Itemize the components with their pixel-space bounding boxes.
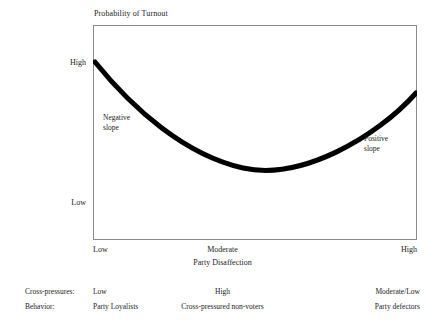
chart-title: Probability of Turnout [94, 8, 168, 19]
chart-figure: Probability of Turnout High Low Negative… [0, 0, 445, 270]
table-row: Behavior: Party Loyalists Cross-pressure… [0, 301, 445, 316]
y-axis-label-low: Low [16, 198, 86, 208]
annotation-negative-slope: Negative slope [103, 113, 130, 133]
turnout-curve-path [95, 62, 416, 170]
annotation-positive-slope-line2: slope [364, 144, 388, 154]
table-row: Cross-pressures: Low High Moderate/Low [0, 286, 445, 301]
curve-layer [93, 25, 417, 240]
y-axis-label-high: High [16, 58, 86, 68]
table-cell-cross-pressures-high: Moderate/Low [0, 286, 420, 298]
table-cell-behavior-high: Party defectors [0, 301, 420, 313]
turnout-curve-svg [93, 25, 417, 240]
annotation-negative-slope-line2: slope [103, 123, 130, 133]
annotation-positive-slope-line1: Positive [364, 134, 388, 144]
x-axis-title: Party Disaffection [0, 258, 445, 268]
annotation-negative-slope-line1: Negative [103, 113, 130, 123]
bottom-annotation-table: Cross-pressures: Low High Moderate/Low B… [0, 286, 445, 320]
x-axis-label-high: High [0, 245, 417, 255]
chart-page: Probability of Turnout High Low Negative… [0, 0, 445, 330]
annotation-positive-slope: Positive slope [364, 134, 388, 154]
